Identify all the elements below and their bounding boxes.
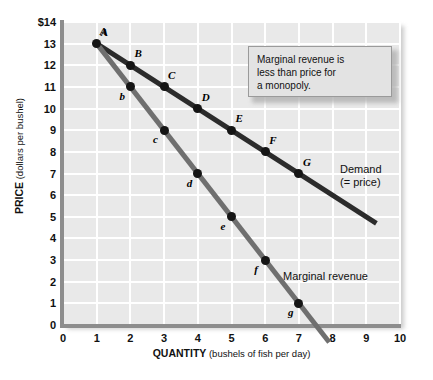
demand-series-label-line2: (= price) (340, 176, 382, 189)
data-point-marker (126, 61, 135, 70)
callout-line-3: a monopoly. (257, 79, 383, 92)
data-point-label: c (153, 134, 158, 145)
demand-series-label: Demand (= price) (340, 163, 382, 189)
data-point-label: B (134, 48, 141, 59)
marginal-revenue-series-label-line1: Marginal revenue (283, 270, 368, 283)
demand-series-label-line1: Demand (340, 163, 382, 176)
callout-line-1: Marginal revenue is (257, 53, 383, 66)
data-point-label: f (254, 264, 258, 275)
data-point-label: A (100, 26, 107, 37)
data-point-label: e (221, 221, 226, 232)
data-point-marker (160, 82, 169, 91)
data-point-marker (261, 147, 270, 156)
data-point-label: D (202, 92, 210, 103)
economics-demand-marginal-revenue-chart: 012345678910111213$14 012345678910 PRICE… (0, 0, 433, 380)
data-point-label: g (288, 307, 294, 318)
data-point-marker (227, 126, 236, 135)
data-point-label: G (303, 157, 311, 168)
data-point-marker (261, 256, 270, 265)
data-point-marker (160, 126, 169, 135)
callout-box: Marginal revenue is less than price for … (248, 46, 392, 97)
callout-line-2: less than price for (257, 66, 383, 79)
data-point-label: F (269, 135, 276, 146)
data-point-label: E (236, 113, 243, 124)
data-point-label: C (168, 70, 175, 81)
data-point-label: b (119, 91, 125, 102)
data-point-label: d (187, 178, 193, 189)
marginal-revenue-series-label: Marginal revenue (283, 270, 368, 283)
